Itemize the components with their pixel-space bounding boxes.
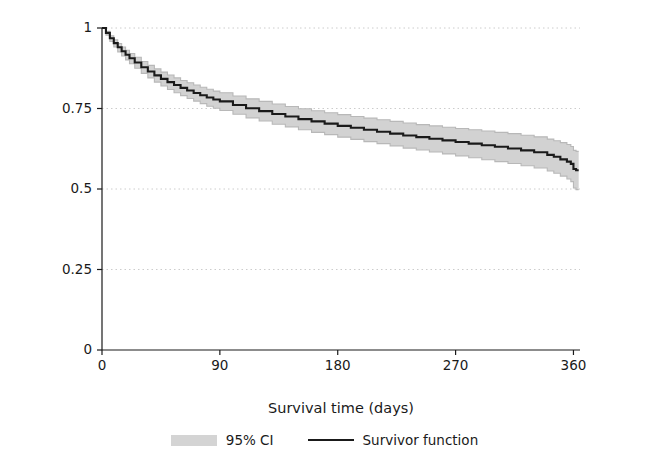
y-tick-label: 0 bbox=[83, 341, 92, 357]
x-tick-label: 180 bbox=[308, 357, 368, 373]
legend-item-ci: 95% CI bbox=[171, 432, 274, 448]
y-tick-label: 0.5 bbox=[71, 180, 92, 196]
x-axis-title: Survival time (days) bbox=[102, 400, 580, 416]
y-tick-label: 1 bbox=[83, 19, 92, 35]
x-axis-ticks: 090180270360 bbox=[102, 357, 580, 377]
survival-chart: Cumulative survival Survival time (days)… bbox=[0, 0, 649, 476]
survivor-line-swatch bbox=[308, 439, 354, 441]
legend-label-survivor: Survivor function bbox=[363, 432, 479, 448]
x-tick-label: 90 bbox=[190, 357, 250, 373]
x-tick-label: 0 bbox=[72, 357, 132, 373]
plot-area bbox=[102, 28, 580, 350]
x-tick-label: 270 bbox=[426, 357, 486, 373]
legend-label-ci: 95% CI bbox=[226, 432, 274, 448]
chart-legend: 95% CI Survivor function bbox=[0, 432, 649, 448]
plot-canvas bbox=[102, 28, 580, 350]
legend-item-survivor: Survivor function bbox=[308, 432, 479, 448]
y-tick-label: 0.75 bbox=[62, 100, 92, 116]
ci-band-swatch bbox=[171, 435, 217, 446]
y-tick-label: 0.25 bbox=[62, 261, 92, 277]
x-tick-label: 360 bbox=[543, 357, 603, 373]
survivor-function-line bbox=[102, 28, 579, 170]
